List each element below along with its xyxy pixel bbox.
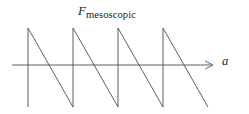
x-axis-label: a xyxy=(222,55,228,68)
mesoscopic-force-figure: Fmesoscopic a xyxy=(0,0,249,114)
ramp-4 xyxy=(163,28,208,107)
ramp-1 xyxy=(28,28,73,107)
ramp-2 xyxy=(73,28,118,107)
function-label: Fmesoscopic xyxy=(78,2,136,20)
function-symbol: F xyxy=(78,3,86,18)
sawtooth-curve xyxy=(28,28,208,107)
ramp-3 xyxy=(118,28,163,107)
function-subscript: mesoscopic xyxy=(86,9,136,20)
